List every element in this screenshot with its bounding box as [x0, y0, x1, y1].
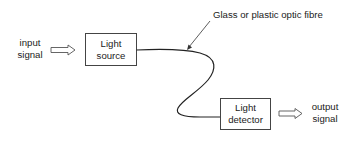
light-source-line1: Light — [101, 38, 122, 49]
light-detector-line1: Light — [235, 102, 256, 113]
fibre-pointer-arrow-icon — [187, 21, 210, 50]
light-source-box: Light source — [86, 34, 137, 66]
fibre-annotation-label: Glass or plastic optic fibre — [213, 9, 323, 20]
light-detector-box: Light detector — [221, 99, 271, 130]
input-signal-line2: signal — [17, 49, 42, 60]
input-arrow-icon — [51, 45, 75, 55]
output-signal-line2: signal — [312, 113, 337, 124]
output-signal-label: output signal — [312, 101, 339, 124]
output-arrow-icon — [279, 109, 302, 119]
output-signal-line1: output — [312, 101, 339, 112]
light-detector-line2: detector — [228, 114, 263, 125]
fibre-optic-diagram: input signal Light source Glass or plast… — [0, 0, 349, 146]
input-signal-label: input signal — [17, 37, 42, 60]
optic-fibre-line — [137, 49, 221, 117]
light-source-line2: source — [97, 50, 126, 61]
input-signal-line1: input — [20, 37, 41, 48]
